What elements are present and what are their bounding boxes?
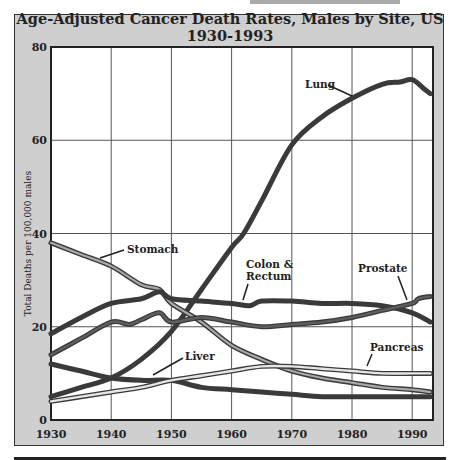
x-tick-label: 1960: [216, 428, 247, 441]
line-chart: 1930194019501960197019801990020406080Tot…: [0, 0, 460, 460]
label-stomach: Stomach: [127, 243, 179, 255]
label-pancreas: Pancreas: [370, 341, 423, 353]
label-liver: Liver: [185, 350, 215, 362]
y-tick-label: 80: [32, 41, 48, 54]
y-tick-label: 40: [32, 228, 48, 241]
label-lung: Lung: [305, 78, 336, 90]
label-rectum: Rectum: [246, 270, 291, 282]
x-tick-label: 1940: [96, 428, 127, 441]
y-axis-label: Total Deaths per 100,000 males: [23, 170, 33, 316]
x-tick-label: 1930: [36, 428, 67, 441]
y-tick-label: 60: [32, 134, 48, 147]
x-tick-label: 1970: [276, 428, 307, 441]
y-tick-label: 20: [32, 321, 48, 334]
x-tick-label: 1980: [337, 428, 368, 441]
x-tick-label: 1950: [156, 428, 187, 441]
x-tick-label: 1990: [397, 428, 428, 441]
label-prostate: Prostate: [358, 262, 408, 274]
label-colon: Colon &: [246, 258, 294, 270]
y-tick-label: 0: [39, 414, 47, 427]
